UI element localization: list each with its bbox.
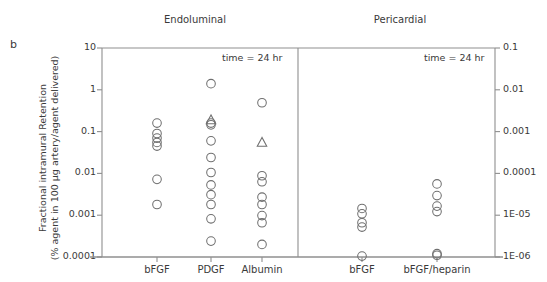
figure-root: b Fractional intramural Retention (% age… [0, 0, 547, 282]
point-endoluminal-PDGF-circle-3 [207, 137, 216, 146]
point-pericardial-bFGF-circle-1 [358, 210, 367, 219]
point-endoluminal-bFGF-circle-6 [153, 200, 162, 209]
point-endoluminal-PDGF-circle-0 [207, 79, 216, 88]
point-endoluminal-PDGF-circle-10 [207, 237, 216, 246]
point-endoluminal-PDGF-circle-9 [207, 215, 216, 224]
point-endoluminal-PDGF-circle-8 [207, 200, 216, 209]
point-endoluminal-bFGF-circle-0 [153, 119, 162, 128]
point-endoluminal-Albumin-circle-0 [258, 98, 267, 107]
point-pericardial-bFGFheparin-circle-1 [433, 191, 442, 200]
plot-canvas [0, 0, 547, 282]
point-endoluminal-Albumin-triangle-0 [257, 137, 267, 146]
point-endoluminal-Albumin-circle-7 [258, 240, 267, 249]
point-endoluminal-PDGF-circle-7 [207, 190, 216, 199]
point-endoluminal-PDGF-circle-5 [207, 168, 216, 177]
point-endoluminal-Albumin-circle-2 [258, 177, 267, 186]
point-pericardial-bFGFheparin-circle-0 [433, 180, 442, 189]
point-endoluminal-bFGF-circle-5 [153, 175, 162, 184]
point-endoluminal-PDGF-circle-6 [207, 181, 216, 190]
point-endoluminal-PDGF-circle-4 [207, 153, 216, 162]
point-pericardial-bFGFheparin-circle-3 [433, 207, 442, 216]
